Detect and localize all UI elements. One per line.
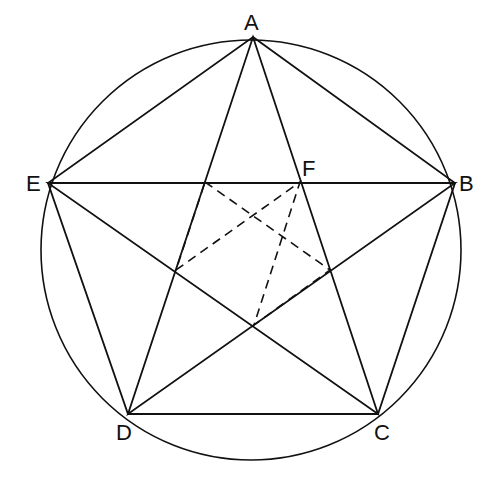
pentagon-diagram: A B C D E F bbox=[0, 0, 498, 477]
label-b: B bbox=[459, 171, 474, 196]
label-a: A bbox=[244, 10, 259, 35]
label-e: E bbox=[26, 171, 41, 196]
label-f: F bbox=[302, 156, 315, 181]
inner-dashed-pentagram bbox=[176, 182, 330, 325]
diagram-canvas: A B C D E F bbox=[0, 0, 498, 477]
circumscribed-circle bbox=[41, 40, 461, 460]
label-c: C bbox=[374, 420, 390, 445]
label-d: D bbox=[116, 420, 132, 445]
